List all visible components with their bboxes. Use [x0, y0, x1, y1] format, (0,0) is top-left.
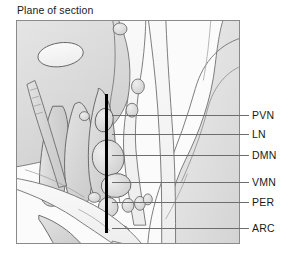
plane-of-section-line	[105, 94, 108, 233]
callout-label-arc: ARC	[252, 222, 275, 234]
hypothalamus-sagittal-illustration	[17, 21, 239, 243]
small-nucleus-d	[113, 23, 127, 35]
small-nucleus-e	[122, 198, 134, 212]
callout-label-vmn: VMN	[252, 176, 276, 188]
small-nucleus-i	[88, 192, 100, 202]
small-nucleus-b	[126, 103, 138, 117]
small-nucleus-g	[143, 194, 152, 205]
callout-label-pvn: PVN	[252, 109, 274, 121]
small-nucleus-c	[131, 79, 144, 94]
callout-label-dmn: DMN	[252, 149, 277, 161]
page-title: Plane of section	[17, 4, 93, 16]
illustration-frame	[16, 20, 240, 244]
callout-label-ln: LN	[252, 128, 266, 140]
small-nucleus-a	[79, 112, 89, 121]
callout-label-per: PER	[252, 196, 274, 208]
